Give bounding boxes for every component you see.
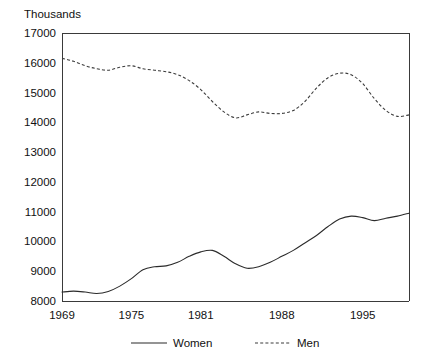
x-tick-label: 1975 [119, 309, 145, 321]
y-tick-label: 9000 [30, 265, 56, 277]
y-axis-unit-label: Thousands [24, 8, 81, 20]
line-chart-container: Thousands 800090001000011000120001300014… [0, 0, 421, 364]
x-tick-label: 1995 [350, 309, 376, 321]
series-line-men [62, 58, 409, 118]
y-axis-tick-labels: 8000900010000110001200013000140001500016… [24, 27, 56, 307]
legend-label-women: Women [173, 337, 212, 349]
x-axis-tick-labels: 19691975198119881995 [49, 309, 375, 321]
y-tick-label: 13000 [24, 146, 56, 158]
y-tick-label: 8000 [30, 295, 56, 307]
x-tick-label: 1981 [188, 309, 214, 321]
y-tick-label: 12000 [24, 176, 56, 188]
y-tick-label: 15000 [24, 87, 56, 99]
chart-canvas: Thousands 800090001000011000120001300014… [0, 0, 421, 364]
legend-label-men: Men [297, 337, 319, 349]
y-tick-label: 16000 [24, 57, 56, 69]
data-series-layer [62, 58, 409, 293]
series-line-women [62, 213, 409, 293]
axis-lines [62, 33, 409, 301]
x-tick-label: 1988 [269, 309, 295, 321]
y-tick-label: 10000 [24, 235, 56, 247]
x-tick-label: 1969 [49, 309, 75, 321]
plot-frame [62, 33, 409, 301]
y-tick-label: 11000 [25, 206, 56, 218]
frame-top-right [62, 33, 409, 301]
y-tick-label: 14000 [24, 116, 56, 128]
y-tick-label: 17000 [24, 27, 56, 39]
chart-legend: WomenMen [131, 337, 319, 349]
